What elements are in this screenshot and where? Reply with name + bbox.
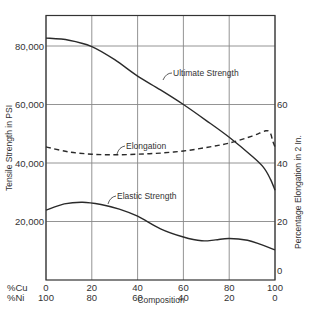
x-tick-label: 0 — [272, 292, 277, 303]
y2-axis-label: Percentage Elongation in 2 In. — [293, 135, 303, 249]
ultimate-strength-label: Ultimate Strength — [173, 68, 239, 78]
y-tick-label: 40,000 — [15, 158, 44, 169]
elastic-strength-label: Elastic Strength — [117, 191, 177, 201]
elastic-strength-curve — [46, 202, 275, 250]
y2-tick-label: 0 — [277, 265, 282, 276]
ultimate-strength-curve — [46, 38, 275, 190]
y-tick-label: 80,000 — [15, 41, 44, 52]
elongation-leader — [117, 146, 125, 154]
chart: 20,00040,00060,00080,000 0204060 0204060… — [0, 0, 309, 315]
y2-tick-label: 40 — [277, 158, 288, 169]
y2-axis-ticks: 0204060 — [277, 99, 288, 276]
x-tick-label: 80 — [87, 292, 98, 303]
elastic-strength-leader — [108, 196, 116, 204]
y2-tick-label: 20 — [277, 216, 288, 227]
y2-tick-label: 60 — [277, 99, 288, 110]
x-tick-label: 20 — [224, 292, 235, 303]
x-axis-label: Composition — [137, 295, 185, 305]
y-axis-ticks: 20,00040,00060,00080,000 — [15, 41, 44, 228]
y-tick-label: 60,000 — [15, 99, 44, 110]
ultimate-strength-leader — [163, 73, 172, 80]
y-axis-label: Tensile Strength in PSI — [4, 105, 14, 191]
elongation-label: Elongation — [126, 141, 166, 151]
x-tick-label: 100 — [38, 292, 54, 303]
x-row-label-ni: %Ni — [7, 292, 24, 303]
y-tick-label: 20,000 — [15, 216, 44, 227]
